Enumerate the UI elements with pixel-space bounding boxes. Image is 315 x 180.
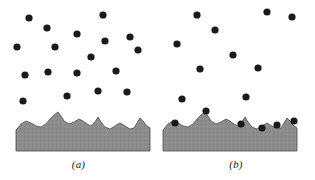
panel-a: (a) <box>0 0 157 180</box>
free-particle <box>87 53 94 60</box>
adsorbed-particle <box>237 120 244 127</box>
free-particle <box>196 65 203 72</box>
free-particle <box>43 24 50 31</box>
free-particle <box>134 46 141 53</box>
free-particle <box>173 40 180 47</box>
adsorbed-particle <box>202 107 209 114</box>
adsorbed-particle <box>273 121 280 128</box>
free-particle <box>21 71 28 78</box>
free-particle <box>13 43 20 50</box>
adsorbed-particle <box>290 117 297 124</box>
panel-b-graphic <box>157 0 315 158</box>
panel-a-graphic <box>0 0 157 158</box>
free-particle <box>254 64 261 71</box>
free-particle <box>73 69 80 76</box>
free-particle <box>19 97 26 104</box>
free-particle <box>94 87 101 94</box>
adsorbed-particle <box>258 124 265 131</box>
free-particle <box>126 33 133 40</box>
free-particle <box>112 67 119 74</box>
free-particle <box>73 30 80 37</box>
free-particle <box>193 11 200 18</box>
free-particle <box>99 11 106 18</box>
panel-a-caption: (a) <box>0 158 157 170</box>
figure-root: (a) (b) <box>0 0 315 180</box>
free-particle <box>178 95 185 102</box>
free-particle <box>25 14 32 21</box>
free-particle <box>263 8 270 15</box>
free-particle <box>44 68 51 75</box>
free-particle <box>229 51 236 58</box>
free-particle <box>63 92 70 99</box>
free-particle <box>242 93 249 100</box>
free-particle <box>211 26 218 33</box>
free-particle <box>288 13 295 20</box>
rough-surface-slab <box>16 112 150 151</box>
rough-surface-slab <box>163 112 297 151</box>
panel-b: (b) <box>157 0 315 180</box>
free-particle <box>51 43 58 50</box>
panel-b-caption: (b) <box>157 158 315 170</box>
free-particle <box>101 37 108 44</box>
adsorbed-particle <box>171 119 178 126</box>
free-particle <box>123 88 130 95</box>
